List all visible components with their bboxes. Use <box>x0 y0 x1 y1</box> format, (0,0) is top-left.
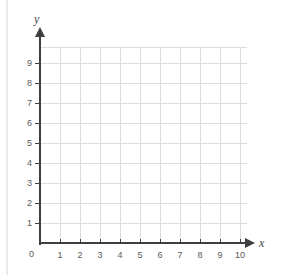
x-tick-label: 2 <box>77 250 82 260</box>
x-tick-mark <box>120 239 121 244</box>
x-tick-label: 10 <box>235 250 245 260</box>
y-tick-label: 3 <box>16 178 32 188</box>
gridline-vertical <box>120 47 121 243</box>
y-tick-label: 2 <box>16 198 32 208</box>
gridline-vertical <box>100 47 101 243</box>
x-tick-mark <box>200 239 201 244</box>
gridline-horizontal <box>41 63 247 64</box>
x-tick-mark <box>100 239 101 244</box>
x-tick-label: 4 <box>117 250 122 260</box>
y-axis-arrow-icon <box>35 27 45 37</box>
y-tick-label: 5 <box>16 138 32 148</box>
gridline-horizontal <box>41 183 247 184</box>
gridline-horizontal <box>41 143 247 144</box>
gridline-horizontal <box>41 103 247 104</box>
x-tick-label: 7 <box>177 250 182 260</box>
x-tick-mark <box>240 239 241 244</box>
x-tick-mark <box>180 239 181 244</box>
y-tick-label: 1 <box>16 218 32 228</box>
y-tick-mark <box>35 223 40 224</box>
y-tick-mark <box>35 203 40 204</box>
x-tick-label: 1 <box>57 250 62 260</box>
plot-area: 1 2 3 4 5 6 7 8 9 10 1 2 3 4 5 6 7 8 9 0… <box>0 0 287 275</box>
gridline-horizontal <box>41 47 247 48</box>
gridline-horizontal <box>41 123 247 124</box>
gridline-vertical <box>140 47 141 243</box>
coordinate-grid-figure: 1 2 3 4 5 6 7 8 9 10 1 2 3 4 5 6 7 8 9 0… <box>0 0 287 275</box>
y-tick-label: 4 <box>16 158 32 168</box>
y-tick-mark <box>35 123 40 124</box>
x-tick-label: 5 <box>137 250 142 260</box>
y-tick-label: 9 <box>16 58 32 68</box>
x-tick-mark <box>220 239 221 244</box>
gridline-horizontal <box>41 223 247 224</box>
gridline-vertical <box>80 47 81 243</box>
gridline-vertical <box>180 47 181 243</box>
y-tick-label: 8 <box>16 78 32 88</box>
x-tick-label: 6 <box>157 250 162 260</box>
y-axis-label: y <box>34 13 39 25</box>
x-tick-mark <box>60 239 61 244</box>
y-tick-mark <box>35 83 40 84</box>
x-tick-label: 8 <box>197 250 202 260</box>
y-tick-mark <box>35 103 40 104</box>
y-axis-line <box>39 36 41 245</box>
x-tick-mark <box>160 239 161 244</box>
gridline-horizontal <box>41 203 247 204</box>
y-tick-mark <box>35 183 40 184</box>
y-tick-mark <box>35 163 40 164</box>
origin-label: 0 <box>29 249 34 259</box>
gridline-vertical <box>60 47 61 243</box>
gridline-horizontal <box>41 83 247 84</box>
y-tick-mark <box>35 63 40 64</box>
y-tick-label: 6 <box>16 118 32 128</box>
y-tick-label: 7 <box>16 98 32 108</box>
gridline-vertical <box>240 47 241 243</box>
x-axis-line <box>39 242 247 244</box>
x-tick-label: 3 <box>97 250 102 260</box>
x-tick-mark <box>140 239 141 244</box>
x-axis-label: x <box>259 237 264 249</box>
gridline-vertical <box>220 47 221 243</box>
x-axis-arrow-icon <box>245 238 255 248</box>
gridline-vertical <box>200 47 201 243</box>
gridline-vertical <box>160 47 161 243</box>
x-tick-label: 9 <box>217 250 222 260</box>
x-tick-mark <box>80 239 81 244</box>
y-tick-mark <box>35 143 40 144</box>
gridline-horizontal <box>41 163 247 164</box>
